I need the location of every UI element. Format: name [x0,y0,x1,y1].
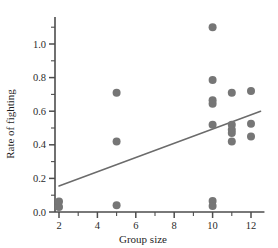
y-tick-label: 0.8 [33,72,46,83]
data-point [113,201,121,209]
y-tick-label: 0.6 [33,106,46,117]
rate-of-fighting-vs-group-size-chart: 0.00.20.40.60.81.0 24681012 Group size R… [0,0,278,248]
data-point [209,76,217,84]
data-point [228,137,236,145]
x-tick-label: 4 [95,220,101,231]
data-point [247,120,255,128]
data-point [209,100,217,108]
x-tick-label: 12 [246,220,257,231]
data-point [55,198,63,206]
scatter-plot-figure: 0.00.20.40.60.81.0 24681012 Group size R… [0,0,278,248]
data-point [228,89,236,97]
data-point [209,202,217,210]
data-point [228,129,236,137]
y-tick-label: 0.4 [33,139,47,150]
data-point [247,87,255,95]
y-axis-title: Rate of fighting [4,89,16,159]
x-tick-label: 8 [172,220,177,231]
data-point [113,89,121,97]
x-tick-label: 2 [56,220,61,231]
y-tick-label: 0.2 [33,173,46,184]
y-tick-label: 0.0 [33,207,46,218]
data-point [209,23,217,31]
y-axis-tick-labels: 0.00.20.40.60.81.0 [33,39,47,218]
data-point [247,132,255,140]
x-axis-group: 24681012 [55,212,264,231]
x-tick-label: 6 [133,220,138,231]
y-axis-group: 0.00.20.40.60.81.0 [33,17,55,217]
x-tick-label: 10 [207,220,218,231]
data-point-group [55,23,255,211]
x-axis-tick-labels: 24681012 [56,220,256,231]
y-tick-label: 1.0 [33,39,46,50]
data-point [113,137,121,145]
x-axis-title: Group size [119,233,167,245]
data-point [209,121,217,129]
